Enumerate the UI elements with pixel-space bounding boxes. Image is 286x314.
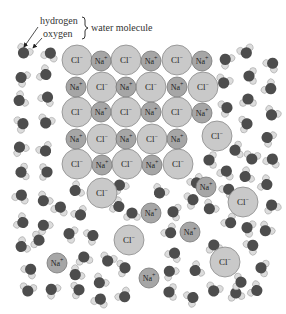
water-molecule-icon bbox=[217, 98, 235, 118]
water-molecule-icon bbox=[35, 64, 55, 85]
water-molecule-icon bbox=[164, 244, 185, 264]
chloride-ion: Cl− bbox=[188, 72, 218, 102]
chloride-ion: Cl− bbox=[87, 178, 117, 208]
water-molecule-icon bbox=[12, 236, 32, 257]
water-molecule-icon bbox=[254, 259, 270, 278]
sodium-ion: Na+ bbox=[91, 102, 111, 122]
chloride-ion: Cl− bbox=[228, 187, 258, 217]
water-molecule-icon bbox=[35, 140, 56, 160]
sodium-ion: Na+ bbox=[167, 77, 187, 97]
chloride-ion: Cl− bbox=[87, 124, 117, 154]
water-molecule-icon bbox=[240, 93, 257, 106]
water-molecule-icon bbox=[216, 163, 236, 181]
chloride-ion: Cl− bbox=[87, 72, 117, 102]
water-molecule-icon bbox=[261, 104, 282, 124]
sodium-ion: Na+ bbox=[192, 103, 212, 123]
water-molecule-icon bbox=[243, 150, 262, 166]
water-molecule-icon bbox=[36, 113, 56, 131]
water-molecule-icon bbox=[9, 138, 30, 158]
sodium-ion: Na+ bbox=[47, 253, 67, 273]
water-molecule-icon bbox=[243, 68, 256, 85]
water-molecule-icon bbox=[203, 152, 216, 169]
water-molecule-icon bbox=[260, 77, 281, 98]
water-molecule-icon bbox=[261, 54, 282, 75]
water-molecule-icon bbox=[246, 280, 266, 301]
sodium-ion: Na+ bbox=[91, 51, 111, 71]
hydrogen-label: hydrogen bbox=[40, 15, 78, 26]
water-molecule-icon bbox=[70, 204, 91, 224]
water-molecule-icon bbox=[216, 49, 237, 70]
water-molecule-icon bbox=[19, 260, 40, 281]
diagram-svg: Cl−Cl−Cl−Cl−Cl−Cl−Cl−Cl−Cl−Cl−Cl−Cl−Cl−C… bbox=[0, 0, 286, 314]
chloride-ion: Cl− bbox=[136, 72, 166, 102]
sodium-ion: Na+ bbox=[66, 129, 86, 149]
chloride-ion: Cl− bbox=[202, 121, 232, 151]
sodium-ion: Na+ bbox=[180, 222, 200, 242]
sodium-ion: Na+ bbox=[167, 129, 187, 149]
sodium-ion: Na+ bbox=[192, 51, 212, 71]
water-molecule-icon bbox=[82, 225, 102, 246]
water-molecule-icon bbox=[113, 286, 134, 307]
chloride-ion: Cl− bbox=[111, 45, 141, 75]
water-molecule-icon bbox=[11, 187, 31, 205]
water-molecule-icon bbox=[255, 220, 276, 241]
water-molecule-label: water molecule bbox=[91, 22, 153, 33]
legend: hydrogen oxygen water molecule bbox=[24, 15, 153, 48]
water-molecule-icon bbox=[159, 262, 180, 283]
sodium-ion: Na+ bbox=[66, 77, 86, 97]
water-molecule-icon bbox=[262, 151, 282, 169]
water-molecule-icon bbox=[239, 218, 257, 238]
water-molecule-icon bbox=[258, 127, 278, 148]
water-molecule-icon bbox=[236, 43, 256, 61]
water-molecule-icon bbox=[238, 115, 254, 134]
oxygen-label: oxygen bbox=[43, 28, 72, 39]
sodium-ion: Na+ bbox=[196, 177, 216, 197]
sodium-ion: Na+ bbox=[141, 203, 161, 223]
water-molecule-icon bbox=[163, 284, 176, 301]
hydrogen-arrow-icon bbox=[24, 27, 38, 47]
chloride-ion: Cl− bbox=[62, 97, 92, 127]
sodium-ion: Na+ bbox=[92, 155, 112, 175]
water-molecule-icon bbox=[12, 67, 32, 88]
chloride-ion: Cl− bbox=[162, 45, 192, 75]
water-molecule-icon bbox=[13, 114, 31, 134]
water-molecule-icon bbox=[10, 90, 30, 111]
water-molecule-icon bbox=[90, 291, 110, 309]
water-molecule-icon bbox=[232, 273, 248, 292]
water-molecule-icon bbox=[166, 203, 182, 222]
water-molecule-icon bbox=[98, 251, 118, 269]
water-molecule-icon bbox=[66, 263, 87, 284]
chloride-ion: Cl− bbox=[163, 149, 193, 179]
water-molecule-icon bbox=[37, 88, 58, 108]
water-molecule-icon bbox=[40, 164, 53, 181]
chloride-ion: Cl− bbox=[162, 97, 192, 127]
chloride-ion: Cl− bbox=[210, 247, 240, 277]
sodium-ion: Na+ bbox=[142, 155, 162, 175]
water-molecule-icon bbox=[236, 166, 256, 187]
water-molecule-icon bbox=[42, 279, 63, 300]
water-molecule-icon bbox=[13, 42, 34, 62]
water-molecule-icon bbox=[12, 212, 32, 233]
sodium-ion: Na+ bbox=[141, 102, 161, 122]
brace-icon bbox=[82, 17, 88, 39]
chloride-ion: Cl− bbox=[137, 124, 167, 154]
water-molecule-icon bbox=[40, 45, 60, 63]
chloride-ion: Cl− bbox=[111, 97, 141, 127]
water-molecule-icon bbox=[182, 287, 202, 308]
water-molecule-icon bbox=[242, 235, 263, 256]
chloride-ion: Cl− bbox=[62, 149, 92, 179]
water-molecule-icon bbox=[61, 224, 79, 244]
sodium-ion: Na+ bbox=[139, 268, 159, 288]
water-molecule-icon bbox=[70, 281, 86, 300]
water-molecule-icon bbox=[204, 281, 224, 299]
chloride-ion: Cl− bbox=[62, 45, 92, 75]
water-molecule-icon bbox=[14, 163, 30, 182]
water-molecule-icon bbox=[159, 222, 180, 243]
water-molecule-icon bbox=[89, 272, 110, 293]
sodium-ion: Na+ bbox=[116, 77, 136, 97]
water-molecule-icon bbox=[75, 250, 94, 266]
sodium-ion: Na+ bbox=[116, 129, 136, 149]
water-molecule-icon bbox=[256, 174, 276, 195]
water-molecule-icon bbox=[19, 282, 38, 298]
water-molecule-icon bbox=[66, 180, 86, 201]
